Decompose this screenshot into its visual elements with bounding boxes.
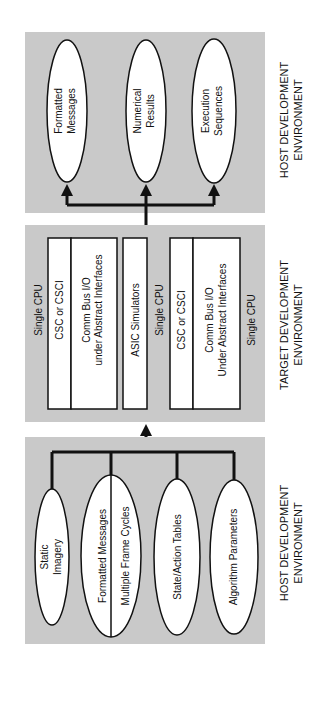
cpu-unit-2: CSC or CSCI Comm Bus I/O Under Abstract … bbox=[170, 238, 240, 409]
node-numerical-results: Numerical Results bbox=[126, 40, 166, 182]
node-formatted-messages-multiple-frame-cycles: Formatted Messages Multiple Frame Cycles bbox=[81, 475, 141, 637]
cpu-label: Single CPU bbox=[246, 294, 257, 346]
svg-text:HOST DEVELOPMENT: HOST DEVELOPMENT bbox=[278, 484, 290, 601]
svg-text:TARGET DEVELOPMENT: TARGET DEVELOPMENT bbox=[278, 260, 290, 390]
svg-text:ENVIRONMENT: ENVIRONMENT bbox=[292, 79, 304, 161]
svg-text:ENVIRONMENT: ENVIRONMENT bbox=[292, 284, 304, 366]
node-label: Formatted Messages bbox=[97, 509, 108, 603]
panel-label-target: TARGET DEVELOPMENT ENVIRONMENT bbox=[278, 260, 304, 390]
asic-simulators: ASIC Simulators bbox=[123, 238, 147, 409]
node-label: Imagery bbox=[52, 539, 63, 575]
cpu-label: Single CPU bbox=[154, 284, 165, 336]
node-label: State/Action Tables bbox=[172, 514, 183, 599]
diagram: Formatted Messages Numerical Results Exe… bbox=[0, 0, 330, 706]
svg-text:HOST DEVELOPMENT: HOST DEVELOPMENT bbox=[278, 61, 290, 178]
asic-label: ASIC Simulators bbox=[130, 283, 141, 356]
comm-label: Under Abstract Interfaces bbox=[217, 264, 228, 377]
node-label: Numerical bbox=[132, 88, 143, 133]
node-algorithm-parameters: Algorithm Parameters bbox=[210, 480, 258, 634]
node-label: Static bbox=[39, 544, 50, 569]
node-label: Algorithm Parameters bbox=[228, 509, 239, 606]
node-state-action-tables: State/Action Tables bbox=[154, 479, 200, 635]
node-execution-sequences: Execution Sequences bbox=[192, 39, 236, 183]
svg-text:ENVIRONMENT: ENVIRONMENT bbox=[292, 502, 304, 584]
csc-label: CSC or CSCI bbox=[54, 280, 65, 339]
node-label: Messages bbox=[66, 88, 77, 134]
node-label: Sequences bbox=[213, 86, 224, 136]
comm-label: Comm Bus I/O bbox=[81, 277, 92, 343]
comm-label: Comm Bus I/O bbox=[204, 287, 215, 353]
node-label: Results bbox=[145, 94, 156, 127]
panel-host-output: Formatted Messages Numerical Results Exe… bbox=[25, 32, 304, 213]
comm-label: under Abstract Interfaces bbox=[93, 254, 104, 365]
node-label: Formatted bbox=[53, 88, 64, 134]
cpu-unit-1: CSC or CSCI Comm Bus I/O under Abstract … bbox=[48, 238, 117, 409]
node-label: Multiple Frame Cycles bbox=[120, 507, 131, 606]
csc-label: CSC or CSCI bbox=[176, 290, 187, 349]
node-static-imagery: Static Imagery bbox=[35, 489, 69, 625]
node-label: Execution bbox=[200, 89, 211, 133]
panel-host-input: Static Imagery Formatted Messages Multip… bbox=[25, 437, 304, 644]
panel-label-host-output: HOST DEVELOPMENT ENVIRONMENT bbox=[278, 61, 304, 178]
node-formatted-messages: Formatted Messages bbox=[47, 40, 87, 182]
panel-label-host-input: HOST DEVELOPMENT ENVIRONMENT bbox=[278, 484, 304, 601]
panel-target: Single CPU CSC or CSCI Comm Bus I/O unde… bbox=[25, 225, 304, 422]
cpu-label: Single CPU bbox=[33, 284, 44, 336]
